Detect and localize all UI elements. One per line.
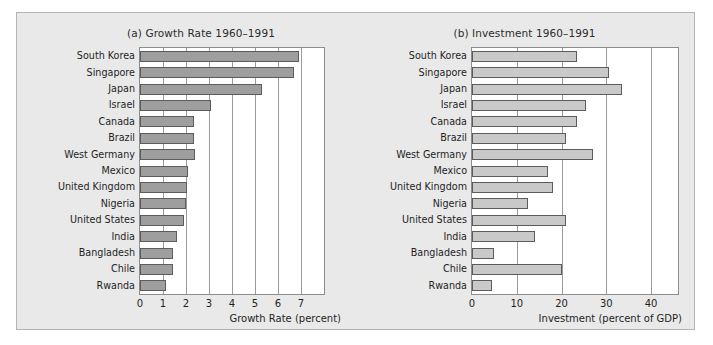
x-tick-label: 0 [460,299,484,309]
panel-a-x-axis-title: Growth Rate (percent) [229,313,341,324]
category-label: Brazil [357,133,467,143]
bar [472,166,548,177]
category-label: Bangladesh [17,248,135,258]
x-tick-label: 10 [505,299,529,309]
gridline-7 [301,48,302,294]
bar [140,231,177,242]
bar [140,280,166,291]
x-tick-label: 7 [289,299,313,309]
bar [140,248,173,259]
bar [472,51,577,62]
category-label: Chile [17,264,135,274]
category-label: Brazil [17,133,135,143]
panel-b-plot-area [471,47,679,295]
x-tick-label: 0 [128,299,152,309]
bar [472,67,609,78]
bar [140,182,187,193]
category-label: Rwanda [357,281,467,291]
bar [472,248,494,259]
bar [472,215,566,226]
bar [140,51,299,62]
panel-b-title: (b) Investment 1960–1991 [357,27,696,39]
category-label: West Germany [17,150,135,160]
category-label: Singapore [357,68,467,78]
bar [472,264,562,275]
category-label: United Kingdom [357,182,467,192]
panel-a-title: (a) Growth Rate 1960–1991 [17,27,357,39]
bar [472,100,586,111]
bar [472,133,566,144]
bar [472,231,535,242]
category-label: United States [357,215,467,225]
bar [472,182,553,193]
bar [140,116,194,127]
bar [140,149,195,160]
category-label: India [17,232,135,242]
category-label: Canada [17,117,135,127]
category-label: Canada [357,117,467,127]
category-label: United States [17,215,135,225]
category-label: Singapore [17,68,135,78]
bar [140,198,186,209]
category-label: Israel [17,100,135,110]
category-label: West Germany [357,150,467,160]
x-tick-label: 2 [174,299,198,309]
x-tick-label: 1 [151,299,175,309]
category-label: Mexico [17,166,135,176]
bar [472,280,492,291]
figure-root: (a) Growth Rate 1960–1991 South KoreaSin… [0,0,713,345]
bar [140,133,194,144]
category-label: Mexico [357,166,467,176]
x-tick-label: 4 [220,299,244,309]
category-label: Bangladesh [357,248,467,258]
category-label: Rwanda [17,281,135,291]
x-tick-label: 6 [266,299,290,309]
bar [140,67,294,78]
category-label: India [357,232,467,242]
bar [140,264,173,275]
panel-a-plot-area [139,47,325,295]
gridline-40 [651,48,652,294]
category-label: United Kingdom [17,182,135,192]
bar [472,149,593,160]
panel-b-x-axis-title: Investment (percent of GDP) [539,313,682,324]
bar [472,116,577,127]
category-label: Japan [17,84,135,94]
x-tick-label: 5 [243,299,267,309]
category-label: South Korea [357,51,467,61]
x-tick-label: 3 [197,299,221,309]
bar [472,198,528,209]
category-label: Nigeria [17,199,135,209]
figure-frame: (a) Growth Rate 1960–1991 South KoreaSin… [16,12,695,330]
panel-growth-rate: (a) Growth Rate 1960–1991 South KoreaSin… [17,13,357,329]
bar [140,100,211,111]
bar [140,166,188,177]
bar [472,84,622,95]
category-label: Japan [357,84,467,94]
x-tick-label: 30 [594,299,618,309]
x-tick-label: 40 [639,299,663,309]
panel-investment: (b) Investment 1960–1991 South KoreaSing… [357,13,696,329]
bar [140,215,184,226]
gridline-6 [278,48,279,294]
bar [140,84,262,95]
x-tick-label: 20 [550,299,574,309]
category-label: Chile [357,264,467,274]
category-label: Nigeria [357,199,467,209]
category-label: South Korea [17,51,135,61]
category-label: Israel [357,100,467,110]
